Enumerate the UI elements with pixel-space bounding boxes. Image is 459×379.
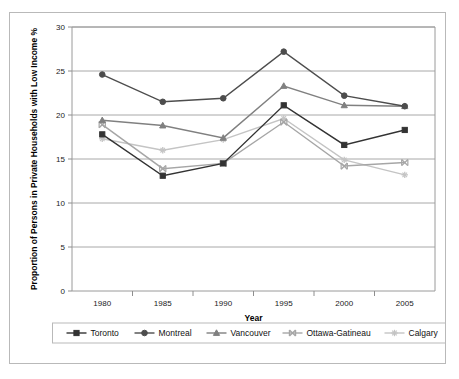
y-axis-tick-labels: 051015202530	[56, 23, 65, 296]
chart-legend: TorontoMontrealVancouverOttawa-GatineauC…	[53, 323, 446, 343]
legend-label: Vancouver	[231, 328, 271, 338]
y-axis-tick-label: 0	[61, 287, 66, 296]
y-axis-tick-label: 25	[56, 67, 65, 76]
data-point-marker	[281, 49, 287, 55]
chart-frame: 051015202530 198019851990199520002005 Ye…	[9, 12, 446, 364]
x-axis-title: Year	[245, 313, 264, 323]
y-axis-tick-label: 20	[56, 111, 65, 120]
data-point-marker	[160, 173, 165, 178]
data-point-marker	[342, 142, 347, 147]
legend-label: Toronto	[91, 328, 120, 338]
x-axis-tick-label: 1995	[275, 299, 293, 308]
series-line	[102, 52, 405, 107]
y-axis-tick-label: 5	[61, 243, 66, 252]
legend-label: Ottawa-Gatineau	[307, 328, 372, 338]
circle-marker	[99, 72, 105, 78]
series-line	[102, 86, 405, 138]
x-axis-tick-label: 2005	[396, 299, 414, 308]
y-axis-title: Proportion of Persons in Private Househo…	[29, 28, 39, 291]
data-point-marker	[99, 72, 105, 78]
y-axis-tick-label: 15	[56, 155, 65, 164]
data-point-marker	[74, 330, 79, 335]
circle-marker	[160, 99, 166, 105]
data-point-marker	[402, 172, 408, 178]
x-axis-tick-labels: 198019851990199520002005	[93, 299, 414, 308]
x-axis-tick-label: 2000	[335, 299, 353, 308]
series-line	[102, 119, 405, 175]
legend-label: Montreal	[159, 328, 192, 338]
circle-marker	[142, 330, 148, 336]
data-point-marker	[221, 161, 226, 166]
square-marker	[281, 103, 286, 108]
square-marker	[342, 142, 347, 147]
data-point-marker	[160, 99, 166, 105]
circle-marker	[281, 49, 287, 55]
data-point-marker	[220, 95, 226, 101]
square-marker	[100, 132, 105, 137]
y-axis-tick-label: 30	[56, 23, 65, 32]
x-axis-tick-label: 1985	[154, 299, 172, 308]
data-point-marker	[100, 132, 105, 137]
data-point-marker	[391, 330, 397, 336]
triangle-marker	[281, 83, 287, 89]
data-point-marker	[281, 103, 286, 108]
series-montreal	[99, 49, 407, 109]
data-point-marker	[281, 83, 287, 89]
line-chart: 051015202530 198019851990199520002005 Ye…	[10, 13, 445, 363]
square-marker	[160, 173, 165, 178]
square-marker	[74, 330, 79, 335]
circle-marker	[220, 95, 226, 101]
y-axis-tick-label: 10	[56, 199, 65, 208]
data-point-marker	[402, 103, 408, 109]
series-vancouver	[99, 83, 408, 141]
data-point-marker	[142, 330, 148, 336]
circle-marker	[341, 93, 347, 99]
data-point-marker	[341, 93, 347, 99]
x-axis-tick-label: 1990	[214, 299, 232, 308]
x-axis-tick-label: 1980	[93, 299, 111, 308]
square-marker	[221, 161, 226, 166]
square-marker	[402, 127, 407, 132]
grid-lines	[72, 27, 435, 247]
circle-marker	[402, 103, 408, 109]
legend-label: Calgary	[409, 328, 439, 338]
data-point-marker	[341, 157, 347, 163]
data-point-marker	[402, 127, 407, 132]
data-point-marker	[160, 147, 166, 153]
series-toronto	[100, 103, 408, 179]
